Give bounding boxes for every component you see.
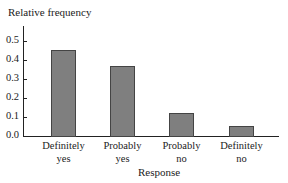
x-tick-label-line1: Probably bbox=[152, 139, 212, 152]
x-tick-label-line1: Definitely bbox=[212, 139, 272, 152]
x-tick-label-line2: yes bbox=[93, 152, 153, 165]
bar-chart: Relative frequency Response 0.00.10.20.3… bbox=[0, 0, 288, 183]
y-tick bbox=[23, 60, 27, 61]
y-tick bbox=[23, 41, 27, 42]
bar-probably-no bbox=[169, 113, 194, 137]
y-tick bbox=[23, 136, 27, 137]
x-tick-label-line1: Definitely bbox=[34, 139, 94, 152]
x-tick-label-line1: Probably bbox=[93, 139, 153, 152]
y-tick-label: 0.1 bbox=[1, 110, 19, 121]
x-tick-label-line2: no bbox=[212, 152, 272, 165]
x-tick-label: Probablyyes bbox=[93, 139, 153, 165]
bar-probably-yes bbox=[110, 66, 135, 137]
x-tick-label-line2: yes bbox=[34, 152, 94, 165]
y-tick-label: 0.0 bbox=[1, 129, 19, 140]
y-tick-label: 0.3 bbox=[1, 72, 19, 83]
y-tick bbox=[23, 117, 27, 118]
x-tick-label: Probablyno bbox=[152, 139, 212, 165]
x-tick-label: Definitelyyes bbox=[34, 139, 94, 165]
x-axis-title: Response bbox=[0, 166, 288, 178]
bar-definitely-yes bbox=[51, 50, 76, 137]
y-tick-label: 0.4 bbox=[1, 53, 19, 64]
y-axis bbox=[23, 26, 24, 137]
y-tick bbox=[23, 98, 27, 99]
x-tick-label-line2: no bbox=[152, 152, 212, 165]
y-tick-label: 0.2 bbox=[1, 91, 19, 102]
x-tick-label: Definitelyno bbox=[212, 139, 272, 165]
y-tick bbox=[23, 79, 27, 80]
y-axis-title: Relative frequency bbox=[8, 6, 91, 18]
bar-definitely-no bbox=[229, 126, 254, 137]
y-tick-label: 0.5 bbox=[1, 34, 19, 45]
